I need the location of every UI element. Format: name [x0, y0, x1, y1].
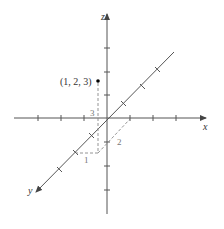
z-value-label: 3	[90, 108, 95, 118]
x-value-label: 1	[84, 155, 89, 165]
z-axis-label: z	[100, 11, 105, 22]
x-axis-label: x	[202, 121, 208, 132]
point-marker	[96, 79, 100, 83]
coordinate-diagram: (1, 2, 3) z x y 3 2 1	[0, 0, 224, 229]
y-axis-label: y	[27, 185, 33, 196]
point-label: (1, 2, 3)	[60, 76, 92, 88]
z-axis	[104, 14, 110, 214]
y-value-label: 2	[117, 137, 122, 147]
y-axis	[36, 52, 174, 192]
x-axis	[14, 115, 206, 121]
